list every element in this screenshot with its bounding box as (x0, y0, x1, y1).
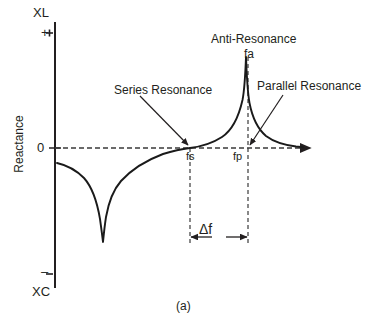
series-resonance-leader (140, 96, 188, 145)
figure-caption: (a) (176, 300, 191, 312)
fs-label: fs (186, 151, 195, 162)
y-axis-top-label: XL (33, 6, 49, 19)
parallel-resonance-label: Parallel Resonance (257, 80, 361, 92)
y-axis-title: Reactance (13, 108, 25, 180)
y-axis-positive-sign: + (41, 26, 49, 39)
y-axis-bottom-label: XC (32, 285, 50, 298)
fa-label: fa (244, 48, 254, 60)
y-axis-negative-sign: – (41, 265, 48, 278)
anti-resonance-label: Anti-Resonance (211, 33, 296, 45)
fp-label: fp (233, 151, 242, 162)
crystal-reactance-figure: XL + Reactance 0 – XC Series Resonance A… (0, 0, 369, 329)
series-resonance-label: Series Resonance (114, 84, 212, 96)
delta-f-label: Δf (199, 222, 212, 236)
reactance-plot-svg (0, 0, 369, 329)
y-axis-zero-label: 0 (37, 141, 44, 154)
